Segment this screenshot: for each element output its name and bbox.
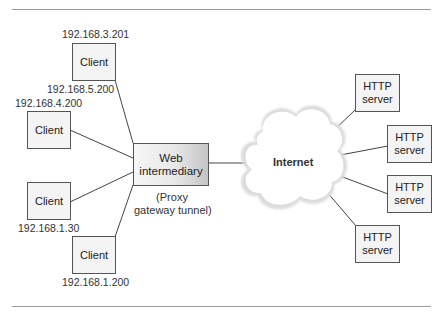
- web-intermediary-box: Web intermediary: [133, 143, 209, 186]
- client-3-ip-below: 192.168.1.30: [18, 222, 79, 234]
- http-server-1-line1: HTTP: [363, 80, 392, 93]
- http-server-4-line1: HTTP: [363, 231, 392, 244]
- http-server-4-line2: server: [362, 244, 393, 257]
- http-server-1-box: HTTP server: [355, 74, 400, 112]
- web-intermediary-line2: intermediary: [139, 165, 202, 178]
- client-3-label: Client: [35, 195, 63, 208]
- client-2-label: Client: [35, 124, 63, 137]
- http-server-2-box: HTTP server: [387, 125, 432, 163]
- client-2-box: Client: [27, 111, 71, 149]
- client-3-box: Client: [27, 182, 71, 220]
- caption-line1: (Proxy: [134, 191, 210, 204]
- client-4-ip-below: 192.168.1.200: [62, 276, 129, 288]
- client-1-box: Client: [72, 43, 116, 81]
- client-4-label: Client: [80, 249, 108, 262]
- http-server-1-line2: server: [362, 93, 393, 106]
- web-intermediary-line1: Web: [159, 152, 182, 165]
- internet-label: Internet: [273, 156, 313, 168]
- http-server-3-line2: server: [394, 194, 425, 207]
- http-server-2-line1: HTTP: [395, 131, 424, 144]
- web-intermediary-caption: (Proxy gateway tunnel): [134, 191, 210, 217]
- http-server-2-line2: server: [394, 144, 425, 157]
- http-server-3-box: HTTP server: [387, 175, 432, 213]
- client-1-ip-above: 192.168.3.201: [62, 28, 129, 40]
- client-2-ip-above: 192.168.4.200: [15, 97, 82, 109]
- client-4-box: Client: [72, 236, 116, 274]
- client-1-label: Client: [80, 56, 108, 69]
- caption-line2: gateway tunnel): [134, 204, 210, 217]
- http-server-4-box: HTTP server: [355, 225, 400, 263]
- connection-lines: [0, 0, 444, 313]
- http-server-3-line1: HTTP: [395, 181, 424, 194]
- client-1-ip-below: 192.168.5.200: [47, 83, 114, 95]
